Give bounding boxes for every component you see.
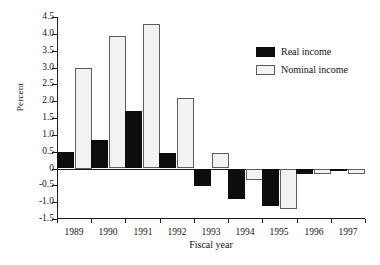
bar-nominal-income-1991 [143,24,160,169]
bar-real-income-1994 [228,169,245,200]
y-tick-label: 2.5 [42,78,54,89]
x-tick-mark [228,219,229,223]
bar-real-income-1992 [159,153,176,168]
x-tick-mark [365,219,366,223]
legend-swatch-real-income [256,47,275,57]
bar-real-income-1995 [262,169,279,207]
bar-nominal-income-1997 [348,169,365,174]
legend-swatch-nominal-income [256,65,275,75]
x-tick-mark [125,219,126,223]
y-tick-label: -1.5 [39,213,54,224]
y-tick-label: 3.5 [42,45,54,56]
bar-real-income-1990 [91,140,108,169]
legend-label-nominal-income: Nominal income [281,62,348,77]
x-tick-mark [194,219,195,223]
x-tick-mark [297,219,298,223]
x-axis-bottom-line [57,218,365,219]
y-tick-label: 1.0 [42,129,54,140]
x-tick-mark [331,219,332,223]
x-tick-label: 1995 [259,227,299,237]
y-tick-label: 0 [49,163,54,174]
y-tick-label: 0.5 [42,146,54,157]
y-axis-title: Percent [15,62,25,132]
legend-label-real-income: Real income [281,44,331,59]
bar-nominal-income-1994 [246,169,263,181]
bar-nominal-income-1989 [75,68,92,169]
bar-nominal-income-1996 [314,169,331,175]
x-tick-label: 1997 [328,227,368,237]
x-axis-title: Fiscal year [57,239,365,250]
legend-item-real-income: Real income [256,44,348,59]
bar-nominal-income-1993 [212,153,229,168]
legend-item-nominal-income: Nominal income [256,62,348,77]
y-axis-line [57,17,58,219]
y-tick-label: 4.5 [42,11,54,22]
x-tick-mark [262,219,263,223]
bar-nominal-income-1995 [280,169,297,209]
y-tick-label: 1.5 [42,112,54,123]
y-tick-label: 4.0 [42,28,54,39]
x-tick-label: 1990 [88,227,128,237]
bar-real-income-1989 [57,152,74,169]
bar-nominal-income-1990 [109,36,126,169]
bar-real-income-1993 [194,169,211,187]
bar-nominal-income-1992 [177,98,194,169]
bar-real-income-1996 [296,169,313,174]
chart-legend: Real income Nominal income [256,44,348,80]
bar-real-income-1997 [330,169,347,171]
x-tick-mark [57,219,58,223]
chart-figure: Percent 4.54.03.53.02.52.01.51.00.50-0.5… [0,0,380,265]
bar-real-income-1991 [125,111,142,168]
x-tick-mark [91,219,92,223]
y-tick-label: -0.5 [39,179,54,190]
x-tick-mark [160,219,161,223]
y-tick-label: -1.0 [39,196,54,207]
y-tick-label: 3.0 [42,62,54,73]
y-tick-label: 2.0 [42,95,54,106]
